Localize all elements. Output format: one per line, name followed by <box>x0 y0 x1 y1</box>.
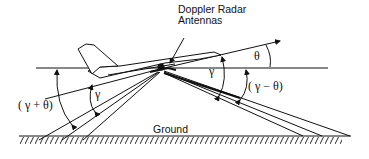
gamma-aft-label: γ <box>95 89 100 100</box>
ground-label: Ground <box>153 124 188 135</box>
antenna-label: Doppler Radar Antennas <box>178 4 246 26</box>
theta-label: θ <box>254 51 260 62</box>
theta-arc <box>266 45 271 67</box>
gamma-minus-theta-label: ( γ − θ) <box>248 81 283 92</box>
gamma-plus-theta-label: ( γ + θ) <box>18 100 53 111</box>
ground-hatch <box>19 137 342 144</box>
antenna-label-line2: Antennas <box>178 15 246 26</box>
aircraft-icon <box>78 44 221 78</box>
gamma-minus-theta-arc <box>240 70 247 100</box>
gamma-fore-label: γ <box>209 66 214 77</box>
gamma-plus-theta-arc <box>57 70 72 125</box>
